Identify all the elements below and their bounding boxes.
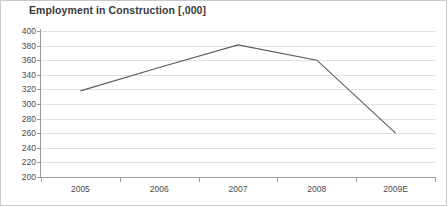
- y-axis-tick-mark: [37, 75, 41, 76]
- y-axis-tick-label: 360: [2, 56, 36, 65]
- gridline: [41, 177, 435, 178]
- y-axis-tick-label: 340: [2, 71, 36, 80]
- x-axis-tick-label: 2006: [150, 184, 169, 194]
- y-axis-tick-mark: [37, 89, 41, 90]
- y-axis-tick-mark: [37, 46, 41, 47]
- y-axis-tick-mark: [37, 133, 41, 134]
- y-axis-tick-mark: [37, 104, 41, 105]
- y-axis-tick-mark: [37, 177, 41, 178]
- y-axis-tick-label: 280: [2, 115, 36, 124]
- y-axis-labels: 400380360340320300280260240220200: [0, 31, 36, 177]
- x-axis-tick-mark: [435, 177, 436, 182]
- x-axis-tick-mark: [199, 177, 200, 182]
- y-axis-tick-mark: [37, 119, 41, 120]
- chart-container: Employment in Construction [,000] 400380…: [0, 0, 448, 207]
- x-axis-tick-mark: [277, 177, 278, 182]
- series-line-employment: [41, 31, 435, 177]
- y-axis-tick-label: 300: [2, 100, 36, 109]
- x-axis-tick-label: 2009E: [383, 184, 408, 194]
- x-axis-tick-label: 2007: [229, 184, 248, 194]
- x-axis-tick-mark: [120, 177, 121, 182]
- y-axis-tick-label: 260: [2, 129, 36, 138]
- y-axis-tick-label: 400: [2, 27, 36, 36]
- x-axis-tick-label: 2005: [71, 184, 90, 194]
- y-axis-tick-label: 380: [2, 42, 36, 51]
- y-axis-tick-mark: [37, 31, 41, 32]
- y-axis-tick-mark: [37, 148, 41, 149]
- y-axis-tick-label: 220: [2, 158, 36, 167]
- chart-title: Employment in Construction [,000]: [29, 4, 206, 16]
- x-axis-tick-mark: [356, 177, 357, 182]
- y-axis-tick-mark: [37, 162, 41, 163]
- x-axis-tick-mark: [41, 177, 42, 182]
- y-axis-tick-label: 240: [2, 144, 36, 153]
- plot-area: [41, 31, 435, 177]
- x-axis-tick-label: 2008: [307, 184, 326, 194]
- y-axis-tick-mark: [37, 60, 41, 61]
- y-axis-tick-label: 200: [2, 173, 36, 182]
- y-axis-tick-label: 320: [2, 85, 36, 94]
